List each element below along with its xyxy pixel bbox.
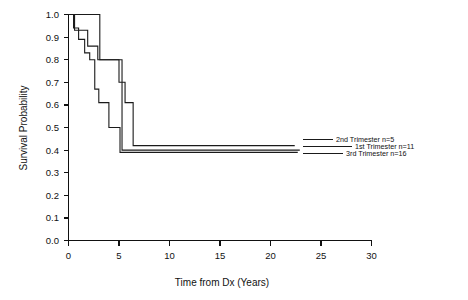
y-tick-label: 0.5 — [46, 122, 59, 133]
x-axis-ticks — [69, 241, 372, 247]
y-tick-label: 0.9 — [46, 32, 59, 43]
y-tick-label: 0.8 — [46, 54, 59, 65]
y-axis-title: Survival Probability — [18, 85, 29, 170]
x-tick-label: 30 — [366, 250, 377, 261]
x-tick-label: 10 — [164, 250, 175, 261]
x-tick-label: 15 — [215, 250, 226, 261]
chart-canvas: Survival Probability Time from Dx (Years… — [0, 0, 468, 300]
y-tick-label: 0.3 — [46, 167, 59, 178]
x-tick-label: 0 — [66, 250, 71, 261]
x-axis-title: Time from Dx (Years) — [175, 277, 269, 288]
y-tick-label: 0.4 — [46, 145, 59, 156]
x-axis-tick-labels: 0 5 10 15 20 25 30 — [66, 250, 377, 261]
survival-curve-figure: Survival Probability Time from Dx (Years… — [0, 0, 468, 300]
x-tick-label: 25 — [316, 250, 327, 261]
y-tick-label: 0.1 — [46, 212, 59, 223]
curve-2nd-trimester — [69, 15, 300, 151]
y-tick-label: 0.6 — [46, 99, 59, 110]
y-tick-label: 0.7 — [46, 77, 59, 88]
y-tick-label: 0.2 — [46, 190, 59, 201]
x-tick-label: 20 — [265, 250, 276, 261]
survival-curves — [69, 15, 300, 153]
curve-1st-trimester — [69, 15, 295, 146]
legend-item-3rd-trimester: 3rd Trimester n=16 — [346, 149, 407, 158]
y-tick-label: 0.0 — [46, 235, 59, 246]
y-axis-tick-labels: 0.0 0.1 0.2 0.3 0.4 0.5 0.6 0.7 0.8 0.9 … — [46, 9, 59, 246]
y-tick-label: 1.0 — [46, 9, 59, 20]
y-axis-ticks — [64, 15, 69, 241]
x-tick-label: 5 — [116, 250, 121, 261]
curve-3rd-trimester — [69, 15, 298, 153]
